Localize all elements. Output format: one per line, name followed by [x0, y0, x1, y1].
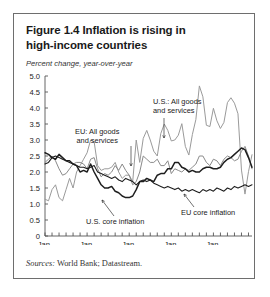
y-axis-tick-label: 1.5 — [29, 184, 40, 193]
chart-plot-area: 00.51.01.52.02.53.03.54.04.55.0Jan.2002J… — [14, 70, 256, 245]
y-axis-tick-label: 2.0 — [29, 168, 40, 177]
y-axis-tick-label: 3.0 — [29, 136, 40, 145]
page-title: Figure 1.4 Inflation is rising in high-i… — [26, 23, 244, 52]
figure-title-line2: high-income countries — [26, 39, 147, 51]
y-axis-tick-label: 5.0 — [29, 72, 40, 81]
annotation-eu-core-inflation: EU core inflation — [181, 208, 235, 217]
axis-unit-note: Percent change, year-over-year — [26, 59, 133, 68]
annotation-us-all-goods-line1: U.S.: All goods — [153, 97, 201, 106]
x-axis-tick-label-month: Jan. — [122, 240, 136, 245]
x-axis-tick-label-month: Jan. — [164, 240, 178, 245]
figure-box: Figure 1.4 Inflation is rising in high-i… — [13, 13, 255, 279]
annotation-us-all-goods: U.S.: All goods and services — [153, 97, 201, 115]
annotation-eu-all-goods: EU: All goods and services — [75, 127, 119, 145]
annotation-us-core-inflation: U.S. core inflation — [86, 217, 144, 226]
annotation-eu-all-goods-line2: and services — [76, 136, 118, 145]
annotation-eu-all-goods-line1: EU: All goods — [75, 127, 119, 136]
x-axis-tick-label-month: Jan. — [206, 240, 220, 245]
annotation-us-all-goods-line2: and services — [153, 106, 195, 115]
sources-note: Sources: World Bank; Datastream. — [26, 259, 142, 268]
y-axis-tick-label: 4.0 — [29, 104, 40, 113]
x-axis-tick-label-month: Jan. — [38, 240, 52, 245]
annotation-leader-line — [102, 200, 114, 216]
y-axis-tick-label: 3.5 — [29, 120, 40, 129]
y-axis-tick-label: 2.5 — [29, 152, 40, 161]
y-axis-tick-label: 4.5 — [29, 88, 40, 97]
sources-text: World Bank; Datastream. — [55, 259, 142, 268]
x-axis-tick-label-month: Jan. — [80, 240, 94, 245]
figure-title-line1: Figure 1.4 Inflation is rising in — [26, 24, 186, 36]
sources-label: Sources: — [26, 259, 55, 268]
y-axis-tick-label: 0.5 — [29, 216, 40, 225]
y-axis-tick-label: 1.0 — [29, 200, 40, 209]
annotation-leader-line — [184, 194, 194, 207]
